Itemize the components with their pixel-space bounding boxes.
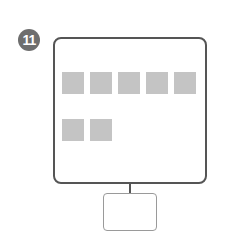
monitor-screen	[53, 37, 207, 184]
app-tile	[90, 72, 112, 94]
monitor-stand-stem	[129, 182, 131, 193]
app-tile	[174, 72, 196, 94]
step-number-badge: 11	[18, 29, 40, 51]
app-tile	[118, 72, 140, 94]
app-tile	[146, 72, 168, 94]
app-tile	[62, 119, 84, 141]
app-tile	[62, 72, 84, 94]
monitor-stand-base	[103, 193, 157, 231]
app-tile	[90, 119, 112, 141]
